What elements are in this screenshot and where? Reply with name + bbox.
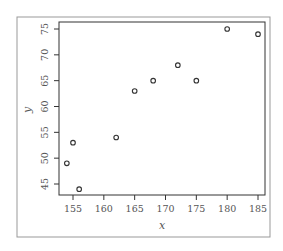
y-tick-label: 55 bbox=[39, 126, 50, 138]
y-tick-label: 60 bbox=[39, 100, 50, 112]
y-tick-label: 75 bbox=[39, 23, 50, 35]
scatter-chart: 155160165170175180185 45505560657075 x y bbox=[0, 0, 283, 251]
y-tick-label: 50 bbox=[39, 152, 50, 164]
x-tick-label: 170 bbox=[156, 203, 174, 214]
chart-canvas: 155160165170175180185 45505560657075 x y bbox=[0, 0, 283, 251]
x-tick-label: 165 bbox=[126, 203, 144, 214]
y-tick-label: 70 bbox=[39, 49, 50, 61]
x-tick-label: 155 bbox=[64, 203, 82, 214]
x-tick-label: 175 bbox=[187, 203, 205, 214]
x-tick-label: 180 bbox=[218, 203, 236, 214]
x-axis-label: x bbox=[159, 219, 166, 232]
x-tick-label: 160 bbox=[95, 203, 113, 214]
y-tick-label: 65 bbox=[39, 75, 50, 87]
y-axis-label: y bbox=[21, 106, 34, 114]
y-tick-label: 45 bbox=[39, 178, 50, 190]
x-tick-label: 185 bbox=[249, 203, 267, 214]
